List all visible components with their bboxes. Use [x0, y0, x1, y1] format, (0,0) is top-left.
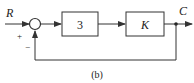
- input-label: R: [5, 6, 14, 20]
- summing-junction: [30, 19, 41, 30]
- block2-label: K: [140, 18, 150, 32]
- output-label: C: [179, 4, 188, 18]
- block-diagram: R + − 3 K C (b): [0, 0, 194, 83]
- caption: (b): [91, 69, 103, 81]
- plus-sign: +: [17, 31, 22, 41]
- block1-label: 3: [77, 18, 83, 32]
- minus-sign: −: [25, 42, 30, 52]
